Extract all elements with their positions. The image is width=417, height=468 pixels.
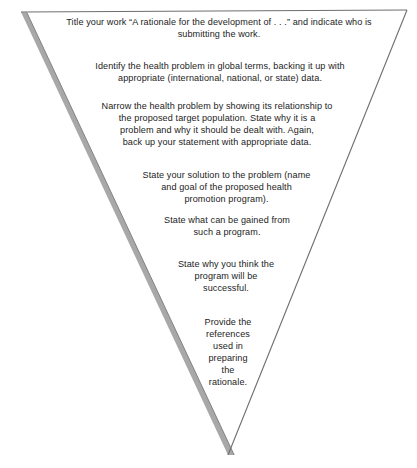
funnel-step-state-gains: State what can be gained from such a pro… [137,214,317,238]
funnel-diagram: Title your work “A rationale for the dev… [0,0,417,468]
funnel-text-layer: Title your work “A rationale for the dev… [0,0,417,468]
funnel-step-title: Title your work “A rationale for the dev… [44,16,394,40]
funnel-step-narrow-problem: Narrow the health problem by showing its… [78,100,356,148]
funnel-step-state-solution: State your solution to the problem (name… [119,169,334,205]
funnel-step-identify-problem: Identify the health problem in global te… [72,60,368,84]
funnel-step-state-success: State why you think the program will be … [151,258,301,294]
funnel-step-provide-references: Provide the references used in preparing… [178,316,278,389]
